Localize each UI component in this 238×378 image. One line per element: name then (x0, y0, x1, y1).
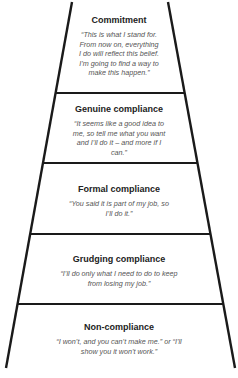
tier-quote: “This is what I stand for. From now on, … (79, 30, 159, 78)
tier-title: Grudging compliance (0, 254, 238, 265)
tier-title: Genuine compliance (0, 104, 238, 115)
tier-commitment: Commitment “This is what I stand for. Fr… (0, 15, 238, 78)
tier-genuine-compliance: Genuine compliance “It seems like a good… (0, 104, 238, 157)
tier-title: Commitment (0, 15, 238, 26)
tier-quote: “You said it is part of my job, so I’ll … (69, 199, 169, 218)
tier-title: Non-compliance (0, 322, 238, 333)
tier-quote: “I won’t, and you can’t make me.” or “I’… (54, 337, 184, 356)
tier-grudging-compliance: Grudging compliance “I’ll do only what I… (0, 254, 238, 288)
tier-title: Formal compliance (0, 184, 238, 195)
tier-quote: “I’ll do only what I need to do to keep … (54, 269, 184, 288)
tier-formal-compliance: Formal compliance “You said it is part o… (0, 184, 238, 218)
tier-non-compliance: Non-compliance “I won’t, and you can’t m… (0, 322, 238, 356)
tier-quote: “It seems like a good idea to me, so tel… (69, 119, 169, 157)
